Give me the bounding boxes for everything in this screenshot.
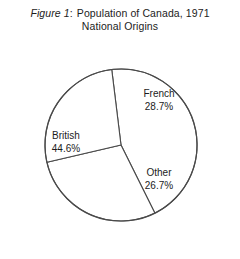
pie-label-other: Other 26.7% xyxy=(128,167,190,192)
pie-label-british-value: 44.6% xyxy=(32,143,100,156)
pie-label-french-name: French xyxy=(128,88,190,101)
pie-label-french: French 28.7% xyxy=(128,88,190,113)
pie-label-french-value: 28.7% xyxy=(128,101,190,114)
pie-chart: French 28.7% British 44.6% Other 26.7% xyxy=(0,0,240,259)
figure-container: Figure 1:Population of Canada, 1971 Nati… xyxy=(0,0,240,259)
pie-label-other-name: Other xyxy=(128,167,190,180)
pie-label-british: British 44.6% xyxy=(32,130,100,155)
pie-label-british-name: British xyxy=(32,130,100,143)
pie-label-other-value: 26.7% xyxy=(128,180,190,193)
